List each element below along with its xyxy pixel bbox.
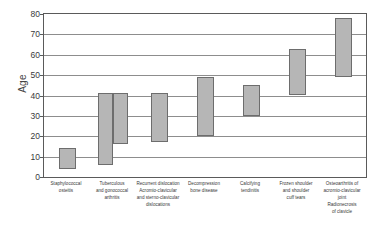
gridline (44, 136, 366, 137)
gridline (44, 34, 366, 35)
y-tick-mark (40, 75, 43, 76)
y-tick-label: 20 (20, 132, 40, 141)
range-bar (197, 77, 214, 136)
y-tick-label: 70 (20, 30, 40, 39)
gridline (44, 55, 366, 56)
gridline (44, 75, 366, 76)
y-tick-mark (40, 14, 43, 15)
y-tick-label: 30 (20, 112, 40, 121)
range-bar (113, 93, 128, 144)
y-tick-label: 0 (20, 173, 40, 182)
x-category-label: Osteoarthritis of acromio-clavicular joi… (315, 181, 369, 215)
plot-area (43, 13, 367, 178)
y-tick-mark (40, 136, 43, 137)
y-tick-label: 50 (20, 71, 40, 80)
y-tick-label: 60 (20, 51, 40, 60)
range-bar-chart: Age 01020304050607080 Staphylococcal ost… (0, 0, 382, 228)
y-tick-label: 10 (20, 152, 40, 161)
x-axis-category-labels: Staphylococcal osteitisTuberculous and g… (43, 181, 367, 227)
range-bar (151, 93, 168, 142)
y-tick-label: 80 (20, 10, 40, 19)
range-bar (243, 85, 260, 116)
range-bar (59, 148, 76, 168)
y-tick-mark (40, 55, 43, 56)
y-tick-label: 40 (20, 91, 40, 100)
range-bar (335, 18, 352, 77)
y-tick-mark (40, 34, 43, 35)
range-bar (98, 93, 113, 164)
y-axis-tick-labels: 01020304050607080 (20, 13, 40, 178)
y-tick-mark (40, 116, 43, 117)
gridline (44, 157, 366, 158)
y-tick-mark (40, 96, 43, 97)
range-bar (289, 49, 306, 96)
y-tick-mark (40, 157, 43, 158)
y-tick-mark (40, 177, 43, 178)
